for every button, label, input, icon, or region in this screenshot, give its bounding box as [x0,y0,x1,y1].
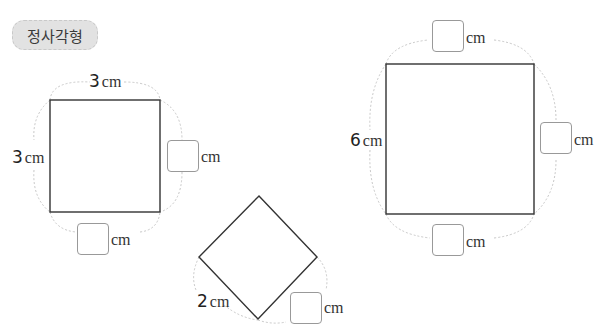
square-2-arcs [370,40,556,238]
answer-box-square-1-right[interactable] [167,140,199,172]
square-2-left-label: 6 cm [350,132,382,149]
answer-box-diamond[interactable] [290,292,322,324]
figures-canvas [0,0,605,336]
unit-label: cm [102,74,122,90]
diamond-side-label: 2 cm [197,293,229,310]
side-value: 3 [89,73,100,90]
unit-label: cm [363,133,383,149]
unit-label: cm [466,234,486,250]
unit-label: cm [201,149,221,165]
unit-label: cm [466,30,486,46]
square-1-left-label: 3 cm [12,149,44,166]
side-value: 6 [350,132,361,149]
answer-box-square-2-right[interactable] [540,122,572,154]
side-value: 3 [12,149,23,166]
answer-box-square-2-bottom[interactable] [432,224,464,256]
side-value: 2 [197,293,208,310]
square-1 [50,100,160,212]
unit-label: cm [111,232,131,248]
unit-label: cm [574,132,594,148]
square-2 [386,64,534,214]
square-1-top-label: 3 cm [89,73,121,90]
answer-box-square-1-bottom[interactable] [77,223,109,255]
answer-box-square-2-top[interactable] [432,20,464,52]
unit-label: cm [25,150,45,166]
unit-label: cm [324,300,344,316]
unit-label: cm [210,294,230,310]
